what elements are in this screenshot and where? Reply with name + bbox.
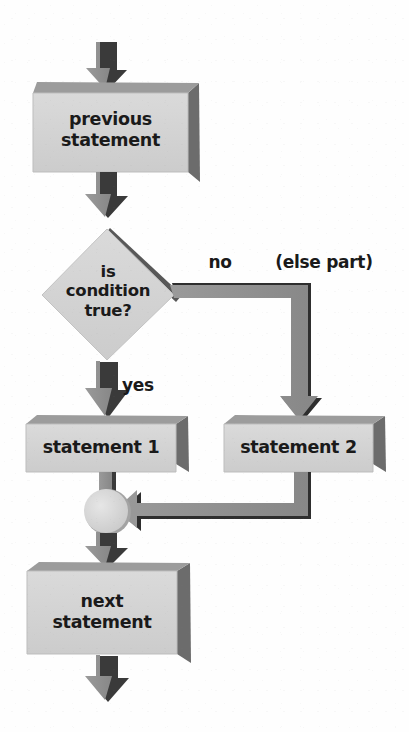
node-label-line: statement bbox=[33, 130, 188, 151]
node-label-line: condition bbox=[47, 281, 169, 300]
edge-label-yes: yes bbox=[122, 375, 172, 395]
node-label-line: previous bbox=[33, 109, 188, 130]
node-label-line: true? bbox=[47, 301, 169, 320]
node-label-statement-2: statement 2 bbox=[224, 437, 373, 458]
node-label-line: statement 1 bbox=[26, 437, 176, 458]
edge-label-no: no bbox=[196, 252, 244, 272]
node-label-line: statement bbox=[27, 612, 177, 633]
edge-condition-to-statement2 bbox=[170, 283, 322, 422]
node-merge-connector[interactable] bbox=[84, 489, 131, 535]
node-label-line: next bbox=[27, 591, 177, 612]
flowchart-canvas: previous statement is condition true? st… bbox=[0, 0, 409, 732]
edge-statement2-to-merge bbox=[115, 472, 311, 531]
edge-label-else-part: (else part) bbox=[264, 252, 384, 272]
node-label-line: statement 2 bbox=[224, 437, 373, 458]
node-label-statement-1: statement 1 bbox=[26, 437, 176, 458]
node-label-line: is bbox=[47, 262, 169, 281]
node-label-previous-statement: previous statement bbox=[33, 109, 188, 150]
edge-next-to-exit bbox=[85, 655, 129, 702]
node-label-next-statement: next statement bbox=[27, 591, 177, 632]
edge-previous-to-condition bbox=[85, 172, 128, 218]
node-label-condition: is condition true? bbox=[47, 262, 169, 320]
